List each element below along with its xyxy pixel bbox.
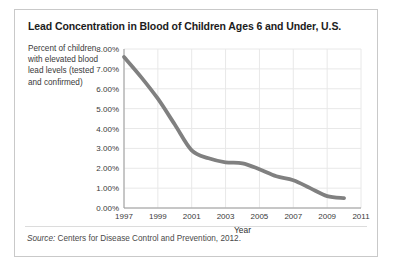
figure-panel: Lead Concentration in Blood of Children …	[14, 9, 378, 257]
source-text: Centers for Disease Control and Preventi…	[55, 234, 241, 243]
svg-text:2005: 2005	[251, 212, 269, 221]
svg-text:3.00%: 3.00%	[96, 144, 119, 153]
svg-text:2009: 2009	[318, 212, 336, 221]
footer-divider	[25, 226, 367, 227]
source-label: Source:	[27, 234, 55, 243]
horizontal-gridlines	[124, 49, 361, 208]
svg-text:5.00%: 5.00%	[96, 105, 119, 114]
x-axis-tick-labels: 19971999200120032005200720092011	[115, 212, 370, 221]
line-chart-svg: 0.00%1.00%2.00%3.00%4.00%5.00%6.00%7.00%…	[15, 10, 379, 258]
plot-area: 0.00%1.00%2.00%3.00%4.00%5.00%6.00%7.00%…	[15, 10, 379, 258]
svg-text:6.00%: 6.00%	[96, 85, 119, 94]
svg-text:7.00%: 7.00%	[96, 65, 119, 74]
svg-text:2001: 2001	[183, 212, 201, 221]
data-series-line	[124, 57, 344, 198]
source-note: Source: Centers for Disease Control and …	[27, 234, 367, 243]
svg-text:1999: 1999	[149, 212, 167, 221]
svg-text:4.00%: 4.00%	[96, 125, 119, 134]
svg-text:1997: 1997	[115, 212, 133, 221]
svg-text:1.00%: 1.00%	[96, 184, 119, 193]
svg-text:2.00%: 2.00%	[96, 164, 119, 173]
svg-text:2007: 2007	[284, 212, 302, 221]
svg-text:2011: 2011	[352, 212, 370, 221]
svg-text:8.00%: 8.00%	[96, 45, 119, 54]
svg-text:2003: 2003	[217, 212, 235, 221]
y-axis-tick-labels: 0.00%1.00%2.00%3.00%4.00%5.00%6.00%7.00%…	[96, 45, 119, 213]
